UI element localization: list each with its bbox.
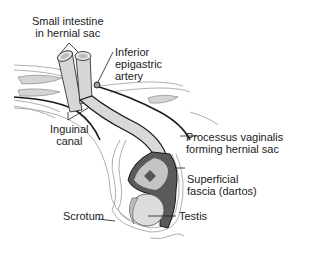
label-scrotum: Scrotum xyxy=(63,210,104,222)
label-line: Scrotum xyxy=(63,210,104,222)
label-line: canal xyxy=(50,135,89,147)
label-line: Testis xyxy=(179,210,207,222)
inferior-epigastric-artery xyxy=(94,82,100,88)
label-line: Inguinal xyxy=(50,123,89,135)
label-line: Inferior xyxy=(115,46,162,58)
label-line: Processus vaginalis xyxy=(186,131,283,143)
label-inferior-epigastric-artery: Inferior epigastric artery xyxy=(115,46,162,82)
label-inguinal-canal: Inguinal canal xyxy=(50,123,89,147)
label-line: epigastric xyxy=(115,58,162,70)
label-superficial-fascia: Superficial fascia (dartos) xyxy=(187,173,257,197)
label-processus-vaginalis: Processus vaginalis forming hernial sac xyxy=(186,131,283,155)
label-line: forming hernial sac xyxy=(186,143,283,155)
label-line: in hernial sac xyxy=(32,27,104,39)
label-line: Small intestine xyxy=(32,15,104,27)
label-line: fascia (dartos) xyxy=(187,185,257,197)
label-small-intestine: Small intestine in hernial sac xyxy=(32,15,104,39)
label-testis: Testis xyxy=(179,210,207,222)
label-line: artery xyxy=(115,70,162,82)
label-line: Superficial xyxy=(187,173,257,185)
